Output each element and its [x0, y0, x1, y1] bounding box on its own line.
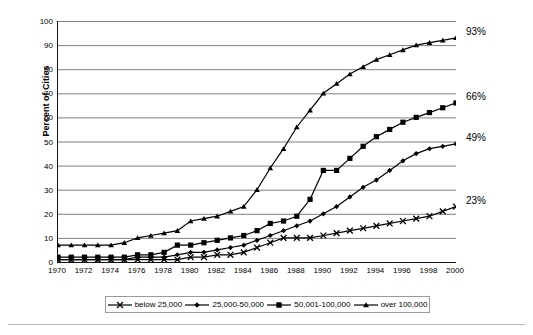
- data-point-marker: [427, 146, 432, 151]
- data-point-marker: [321, 168, 326, 173]
- series-line: [58, 103, 456, 257]
- data-point-marker: [374, 134, 379, 139]
- data-series-4: [58, 35, 456, 247]
- data-point-marker: [294, 214, 299, 219]
- data-point-marker: [453, 35, 456, 40]
- x-tick-label: 1994: [366, 266, 384, 275]
- y-tick-label: 80: [44, 65, 53, 74]
- y-tick-label: 20: [44, 209, 53, 218]
- data-point-marker: [440, 208, 446, 214]
- data-point-marker: [268, 221, 273, 226]
- data-point-marker: [175, 243, 180, 248]
- data-point-marker: [453, 141, 456, 146]
- end-value-label: 66%: [466, 91, 486, 102]
- data-point-marker: [108, 255, 113, 260]
- data-point-marker: [162, 250, 167, 255]
- legend-item-1: below 25,000: [108, 300, 183, 310]
- legend-label: 25,000-50,000: [211, 300, 264, 309]
- x-tick-label: 1988: [287, 266, 305, 275]
- data-point-marker: [82, 255, 87, 260]
- data-point-marker: [228, 235, 233, 240]
- x-tick-label: 1986: [260, 266, 278, 275]
- legend-marker-diamond-icon: [185, 300, 209, 310]
- data-point-marker: [241, 243, 246, 248]
- data-point-marker: [95, 255, 100, 260]
- data-point-marker: [241, 233, 246, 238]
- y-tick-label: 10: [44, 233, 53, 242]
- y-tick-label: 70: [44, 89, 53, 98]
- chart-figure: Percent of Cities 0102030405060708090100…: [0, 0, 533, 335]
- x-tick-label: 1972: [75, 266, 93, 275]
- data-point-marker: [347, 71, 353, 76]
- data-point-marker: [254, 187, 260, 192]
- y-axis-tick-labels: 0102030405060708090100: [26, 21, 53, 262]
- plot-area: [57, 21, 456, 263]
- chart-legend: below 25,00025,000-50,00050,001-100,000o…: [105, 296, 430, 313]
- data-point-marker: [387, 127, 392, 132]
- legend-item-2: 25,000-50,000: [185, 300, 264, 310]
- legend-item-3: 50,001-100,000: [267, 300, 350, 310]
- end-value-label: 23%: [466, 195, 486, 206]
- data-point-marker: [201, 240, 206, 245]
- legend-label: below 25,000: [134, 300, 183, 309]
- y-tick-label: 50: [44, 137, 53, 146]
- data-point-marker: [267, 240, 273, 246]
- data-point-marker: [215, 238, 220, 243]
- legend-marker-x-icon: [108, 300, 132, 310]
- y-tick-label: 100: [40, 17, 53, 26]
- x-tick-label: 1982: [207, 266, 225, 275]
- data-point-marker: [347, 156, 352, 161]
- x-tick-label: 1998: [420, 266, 438, 275]
- data-point-marker: [254, 238, 259, 243]
- data-point-marker: [69, 255, 74, 260]
- data-series-layer: [58, 21, 456, 262]
- data-point-marker: [254, 245, 260, 251]
- data-point-marker: [294, 223, 299, 228]
- data-point-marker: [453, 100, 456, 105]
- data-point-marker: [400, 120, 405, 125]
- footer-divider: [8, 324, 525, 325]
- x-tick-label: 1970: [48, 266, 66, 275]
- data-point-marker: [307, 218, 312, 223]
- data-point-marker: [188, 243, 193, 248]
- data-point-marker: [361, 144, 366, 149]
- x-tick-label: 1980: [181, 266, 199, 275]
- legend-label: 50,001-100,000: [293, 300, 350, 309]
- data-point-marker: [307, 197, 312, 202]
- x-tick-label: 1984: [234, 266, 252, 275]
- series-line: [58, 38, 456, 245]
- end-value-label: 49%: [466, 132, 486, 143]
- data-point-marker: [414, 151, 419, 156]
- data-point-marker: [427, 110, 432, 115]
- data-point-marker: [135, 252, 140, 257]
- data-series-3: [58, 100, 456, 259]
- y-tick-label: 90: [44, 41, 53, 50]
- data-point-marker: [281, 228, 286, 233]
- data-point-marker: [281, 218, 286, 223]
- data-point-marker: [414, 115, 419, 120]
- data-point-marker: [268, 233, 273, 238]
- data-point-marker: [281, 146, 287, 151]
- data-point-marker: [228, 245, 233, 250]
- x-tick-label: 1978: [154, 266, 172, 275]
- data-point-marker: [440, 144, 445, 149]
- legend-marker-glyph: [195, 302, 200, 307]
- legend-marker-glyph: [277, 302, 282, 307]
- data-point-marker: [201, 250, 206, 255]
- data-point-marker: [254, 228, 259, 233]
- x-tick-label: 1974: [101, 266, 119, 275]
- data-point-marker: [188, 250, 193, 255]
- data-point-marker: [321, 211, 326, 216]
- y-tick-label: 30: [44, 185, 53, 194]
- end-value-label: 93%: [466, 26, 486, 37]
- y-tick-label: 60: [44, 113, 53, 122]
- data-point-marker: [58, 255, 61, 260]
- data-point-marker: [334, 168, 339, 173]
- data-point-marker: [122, 255, 127, 260]
- data-point-marker: [215, 247, 220, 252]
- legend-marker-triangle-icon: [354, 300, 378, 310]
- x-tick-label: 1976: [128, 266, 146, 275]
- data-point-marker: [148, 252, 153, 257]
- data-point-marker: [360, 64, 366, 69]
- legend-item-4: over 100,000: [354, 300, 428, 310]
